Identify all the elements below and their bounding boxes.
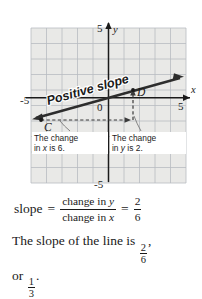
formula-result-numerator: 2 <box>134 195 142 207</box>
conclusion-frac1-numerator: 2 <box>140 242 147 253</box>
callout-x-line2-post: is 6. <box>47 143 65 153</box>
conclusion-period: . <box>36 268 39 283</box>
y-axis-label: y <box>112 24 118 35</box>
coordinate-plane-svg: Positive slope C D x y -5 5 5 -5 0 <box>0 0 202 190</box>
slope-formula: slope = change in y change in x = 2 6 <box>0 188 202 230</box>
formula-fraction-change: change in y change in x <box>60 195 116 223</box>
formula-fraction-bar <box>60 209 116 210</box>
callout-y-line2-pre: in <box>112 143 121 153</box>
callout-change-in-x: The change in x is 6. <box>32 132 108 154</box>
conclusion-fraction-two-sixths: 2 6 <box>140 242 147 265</box>
callout-y-line1: The change <box>112 133 156 143</box>
conclusion-comma: , <box>148 233 151 248</box>
point-d-label: D <box>136 86 146 98</box>
conclusion-frac1-denominator: 6 <box>140 254 147 265</box>
callout-x-line2-pre: in <box>34 143 43 153</box>
formula-numerator: change in y <box>60 195 116 207</box>
conclusion-text-before: The slope of the line is <box>12 233 135 248</box>
origin-label: 0 <box>97 101 103 113</box>
callout-x-line1: The change <box>34 133 78 143</box>
conclusion-fraction-one-third: 1 3 <box>28 276 35 299</box>
y-max-tick-label: 5 <box>97 22 103 34</box>
formula-result-denominator: 6 <box>134 211 142 223</box>
conclusion-frac2-numerator: 1 <box>28 276 35 287</box>
graph-figure: Positive slope C D x y -5 5 5 -5 0 <box>0 0 202 190</box>
x-max-tick-label: 5 <box>178 100 184 112</box>
formula-equals-1: = <box>48 201 56 217</box>
conclusion-or-word: or <box>12 268 23 283</box>
formula-denominator: change in x <box>60 211 116 223</box>
x-min-tick-label: -5 <box>20 94 30 106</box>
point-c-marker <box>39 118 43 122</box>
formula-result-fraction: 2 6 <box>134 195 142 223</box>
point-d-marker <box>131 88 135 92</box>
formula-result-bar <box>134 209 142 210</box>
callout-change-in-y: The change in y is 2. <box>110 132 186 154</box>
x-axis-label: x <box>190 84 196 95</box>
formula-slope-word: slope <box>14 201 43 217</box>
formula-equals-2: = <box>121 201 129 217</box>
conclusion-frac2-denominator: 3 <box>28 288 35 299</box>
callout-y-line2-post: is 2. <box>125 143 143 153</box>
conclusion-sentence: The slope of the line is 2 6 , or 1 3 . <box>12 230 200 299</box>
